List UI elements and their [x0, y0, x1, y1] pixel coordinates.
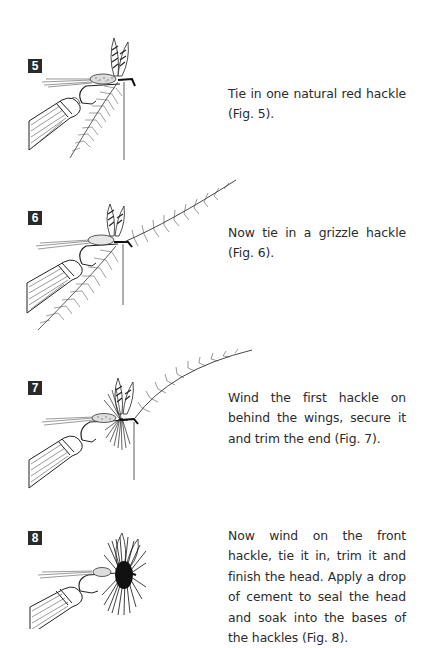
step-6-instruction: Now tie in a grizzle hackle (Fig. 6). [228, 223, 406, 264]
fly-tying-illustration-fig8 [0, 495, 220, 629]
fly-tying-illustration-fig7 [0, 330, 260, 495]
step-5: 5 T [0, 0, 422, 160]
fly-tying-illustration-fig6 [0, 160, 260, 330]
step-8: 8 Now wind on the front hackle, tie it i… [0, 495, 422, 629]
vise-jaw-icon [29, 98, 80, 150]
fly-tying-illustration-fig5 [0, 0, 220, 160]
step-7-instruction: Wind the first hackle on behind the wing… [228, 388, 406, 449]
step-6: 6 Now tie in a grizzle hackl [0, 160, 422, 330]
step-8-instruction: Now wind on the front hackle, tie it in,… [228, 526, 406, 648]
step-5-instruction: Tie in one natural red hackle (Fig. 5). [228, 84, 406, 125]
step-7: 7 Wind the first hackle on behind the [0, 330, 422, 495]
